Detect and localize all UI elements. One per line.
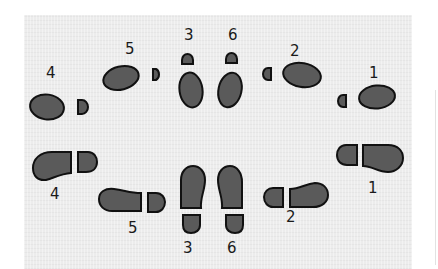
top-step-5 — [101, 62, 159, 93]
heel-icon — [264, 188, 283, 207]
bottom-step-1 — [337, 145, 403, 172]
heel-icon — [153, 69, 159, 80]
step-label: 3 — [184, 26, 194, 44]
top-row-labels: 4 5 3 6 2 1 — [46, 26, 379, 82]
sole-icon — [101, 62, 141, 93]
heel-icon — [337, 145, 357, 165]
step-label: 4 — [50, 185, 60, 203]
top-step-4 — [28, 92, 88, 121]
top-step-1 — [338, 84, 396, 111]
heel-icon — [263, 68, 271, 80]
bottom-step-3 — [181, 166, 205, 233]
sole-icon — [218, 166, 242, 208]
sole-icon — [363, 145, 403, 172]
heel-icon — [78, 100, 88, 114]
bottom-step-2 — [264, 183, 328, 207]
step-label: 6 — [227, 239, 237, 257]
step-label: 6 — [228, 26, 238, 44]
sole-icon — [281, 60, 323, 90]
sole-icon — [181, 166, 205, 208]
sole-icon — [33, 152, 71, 180]
bottom-row-labels: 4 5 3 6 2 1 — [50, 179, 378, 257]
step-label: 5 — [125, 40, 135, 58]
top-step-3 — [177, 54, 205, 109]
sole-icon — [215, 70, 245, 109]
step-label: 2 — [290, 42, 300, 60]
bottom-step-4 — [33, 152, 97, 180]
bottom-step-5 — [99, 189, 165, 212]
heel-icon — [226, 53, 237, 63]
footprint-diagram: 4 5 3 6 2 1 4 5 3 6 2 1 — [0, 0, 438, 269]
sole-icon — [358, 84, 396, 111]
bottom-step-6 — [218, 166, 243, 233]
sole-icon — [28, 92, 65, 121]
sole-icon — [177, 71, 205, 109]
top-step-2 — [263, 60, 323, 90]
heel-icon — [183, 215, 200, 233]
step-label: 2 — [286, 208, 296, 226]
heel-icon — [78, 152, 97, 172]
heel-icon — [338, 95, 346, 107]
step-label: 5 — [128, 219, 138, 237]
step-label: 1 — [368, 179, 378, 197]
step-label: 1 — [369, 64, 379, 82]
top-step-6 — [215, 53, 245, 110]
heel-icon — [226, 215, 243, 233]
heel-icon — [148, 193, 165, 212]
sole-icon — [290, 183, 328, 207]
heel-icon — [182, 54, 193, 64]
step-label: 4 — [46, 64, 56, 82]
step-label: 3 — [183, 239, 193, 257]
sole-icon — [99, 189, 141, 211]
